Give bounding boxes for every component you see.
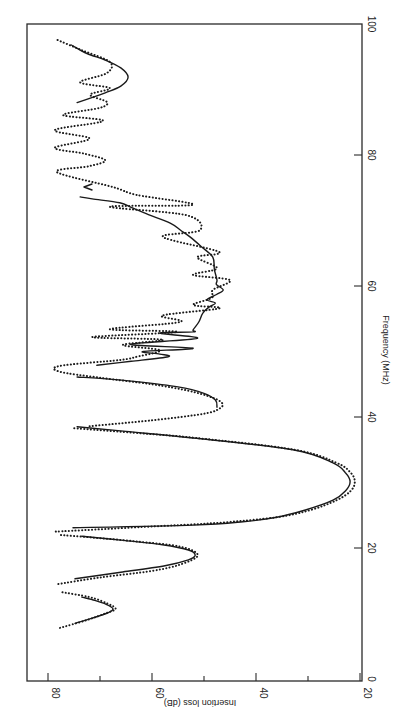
theoretical-curve (71, 45, 128, 103)
measured-curve (56, 428, 355, 531)
freq-tick-label: 40 (366, 411, 377, 423)
theoretical-curve (75, 536, 195, 579)
loss-axis-title: Insertion loss (dB) (164, 698, 237, 708)
loss-tick-label: 80 (50, 687, 61, 699)
axis-tick-labels: 20406080020406080100 (50, 16, 377, 699)
theoretical-curve (77, 377, 217, 407)
freq-tick-label: 80 (366, 149, 377, 161)
theoretical-curve (75, 597, 113, 623)
plot-frame (27, 24, 362, 681)
freq-axis-title: Frequency (MHz) (381, 315, 391, 385)
loss-tick-label: 40 (258, 687, 269, 699)
v-mark (84, 184, 92, 190)
freq-tick-label: 100 (366, 16, 377, 33)
theoretical-curve (73, 427, 350, 528)
freq-tick-label: 60 (366, 280, 377, 292)
measured-curve (58, 535, 197, 584)
insertion-loss-chart: 20406080020406080100 Insertion loss (dB)… (0, 0, 403, 722)
theoretical-curve (80, 197, 223, 365)
loss-tick-label: 20 (362, 687, 373, 699)
data-series (54, 40, 355, 628)
measured-curve (60, 592, 116, 628)
freq-tick-label: 0 (366, 676, 377, 682)
freq-tick-label: 20 (366, 542, 377, 554)
measured-curve (54, 40, 231, 427)
axis-ticks (48, 155, 362, 681)
loss-tick-label: 60 (154, 687, 165, 699)
